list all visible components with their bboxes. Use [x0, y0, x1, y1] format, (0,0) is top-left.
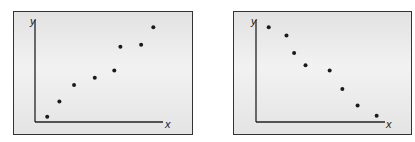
data-point [93, 76, 97, 80]
data-point [72, 83, 76, 87]
x-axis-label-left: x [165, 118, 171, 130]
data-point [151, 25, 155, 29]
y-axis-label-left: y [30, 15, 36, 27]
data-point [292, 51, 296, 55]
points-left [45, 25, 155, 119]
data-point [328, 69, 332, 73]
data-point [267, 25, 271, 29]
data-point [139, 43, 143, 47]
data-point [118, 45, 122, 49]
data-point [356, 104, 360, 108]
data-point [57, 99, 61, 103]
data-point [340, 87, 344, 91]
data-point [45, 115, 49, 119]
axes-left [35, 20, 163, 122]
data-point [112, 69, 116, 73]
axes-right [256, 20, 385, 122]
y-axis-label-right: y [251, 15, 257, 27]
scatter-plots [0, 0, 415, 142]
data-point [375, 114, 379, 118]
points-right [267, 25, 379, 118]
data-point [284, 33, 288, 37]
data-point [304, 63, 308, 67]
x-axis-label-right: x [386, 118, 392, 130]
